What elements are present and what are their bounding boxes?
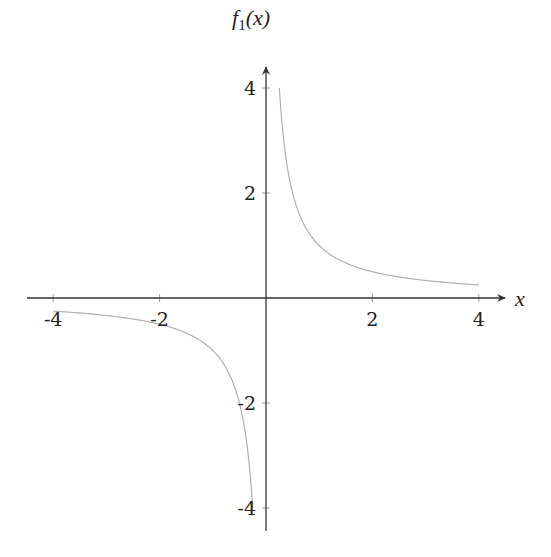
curve-branch <box>279 88 479 285</box>
y-tick-label: -4 <box>237 497 256 519</box>
y-axis-label: f1(x) <box>232 5 270 33</box>
y-tick-label: -2 <box>237 392 256 414</box>
y-tick-label: 2 <box>244 182 256 204</box>
y-tick-label: 4 <box>244 77 256 99</box>
x-tick-label: 4 <box>473 308 485 330</box>
x-axis-label: x <box>514 286 525 311</box>
x-tick-label: -2 <box>150 308 169 330</box>
x-tick-label: -4 <box>44 308 63 330</box>
x-tick-label: 2 <box>366 308 378 330</box>
chart: -4-224-4-224 x f1(x) <box>0 0 551 557</box>
curve-branch <box>53 311 253 508</box>
